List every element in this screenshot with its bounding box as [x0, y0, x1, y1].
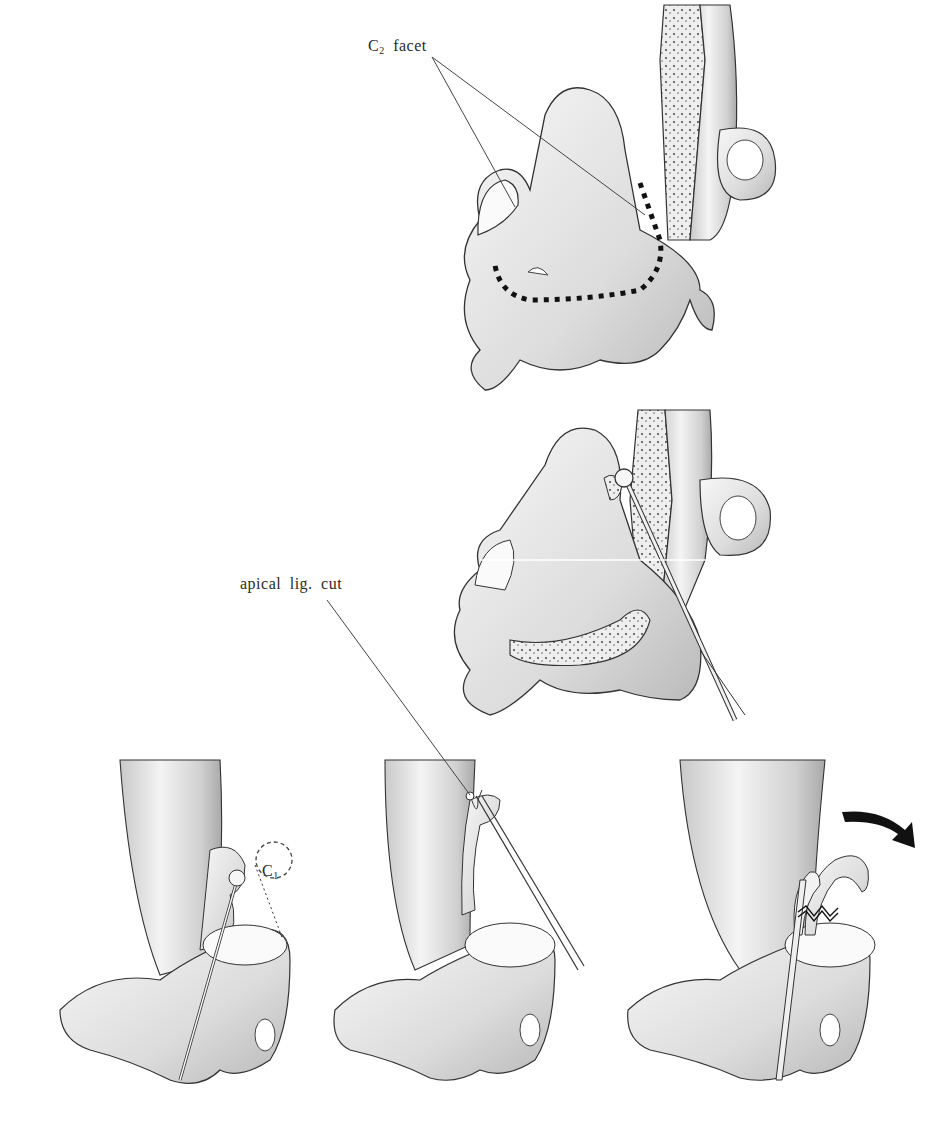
bottom-right-panel	[628, 760, 915, 1080]
c1-label: C1	[262, 862, 279, 881]
bottom-center-panel	[334, 760, 584, 1080]
c2-facet-label: C2 facet	[368, 37, 427, 56]
top-panel-c2-vertebra	[464, 5, 775, 390]
apical-ligament-cut-label: apical lig. cut	[240, 575, 342, 593]
anatomical-figure	[0, 0, 944, 1139]
rotation-arrow-icon	[842, 811, 915, 848]
bottom-left-panel	[60, 760, 292, 1083]
middle-panel-sectioned-vertebra	[454, 410, 770, 720]
